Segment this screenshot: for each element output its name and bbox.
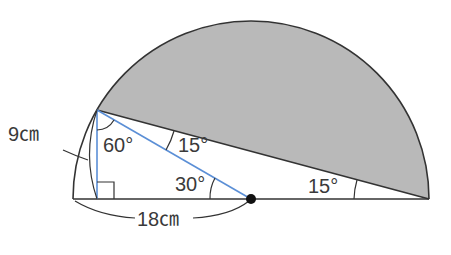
angle-arc-60 [97,120,114,130]
angle-arc-30 [210,178,215,199]
shaded-segment [97,21,429,199]
center-dot [246,194,256,204]
right-angle-mark [97,182,114,199]
geometry-figure: 9㎝ 60° 15° 30° 15° 18㎝ [0,0,451,255]
height-label-pointer [63,150,88,160]
angle-label-15-right: 15° [308,175,338,197]
angle-label-30: 30° [175,173,205,195]
radius-brace-right [193,201,249,218]
angle-label-60: 60° [103,134,133,156]
angle-label-15-vertex: 15° [178,134,208,156]
radius-label: 18㎝ [137,208,179,230]
angle-arc-15-right [354,180,357,199]
height-label: 9㎝ [8,123,39,145]
angle-arc-15-vertex [166,131,174,150]
radius-brace-left [75,201,135,218]
